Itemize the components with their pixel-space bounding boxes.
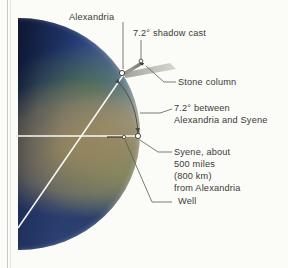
leader-lines	[107, 22, 176, 202]
leader-central-angle-b	[160, 109, 172, 113]
label-syene-line3: (800 km)	[174, 171, 212, 182]
label-syene-line4: from Alexandria	[174, 183, 241, 194]
label-shadow-cast: 7.2° shadow cast	[133, 28, 206, 39]
sun-ray-to-alexandria	[18, 74, 124, 228]
label-syene-line1: Syene, about	[174, 147, 230, 158]
diagram-overlay	[0, 0, 288, 268]
label-well: Well	[178, 196, 196, 207]
leader-syene-a	[140, 140, 158, 152]
label-central-angle-line2: Alexandria and Syene	[174, 115, 268, 126]
label-stone-column: Stone column	[178, 77, 236, 88]
central-angle-arc	[120, 84, 138, 133]
well-point-marker	[122, 135, 125, 138]
sun-rays	[18, 74, 136, 228]
figure-eratosthenes-diagram: Alexandria 7.2° shadow cast Stone column…	[0, 0, 288, 268]
label-alexandria: Alexandria	[69, 12, 114, 23]
label-central-angle-line1: 7.2° between	[174, 103, 230, 114]
leader-well-a	[125, 140, 152, 202]
central-angle-arc-path	[120, 84, 138, 133]
alexandria-point-marker	[119, 70, 124, 75]
label-syene-line2: 500 miles	[174, 159, 215, 170]
column-top-point-marker	[139, 59, 143, 63]
syene-point-marker	[135, 133, 140, 138]
